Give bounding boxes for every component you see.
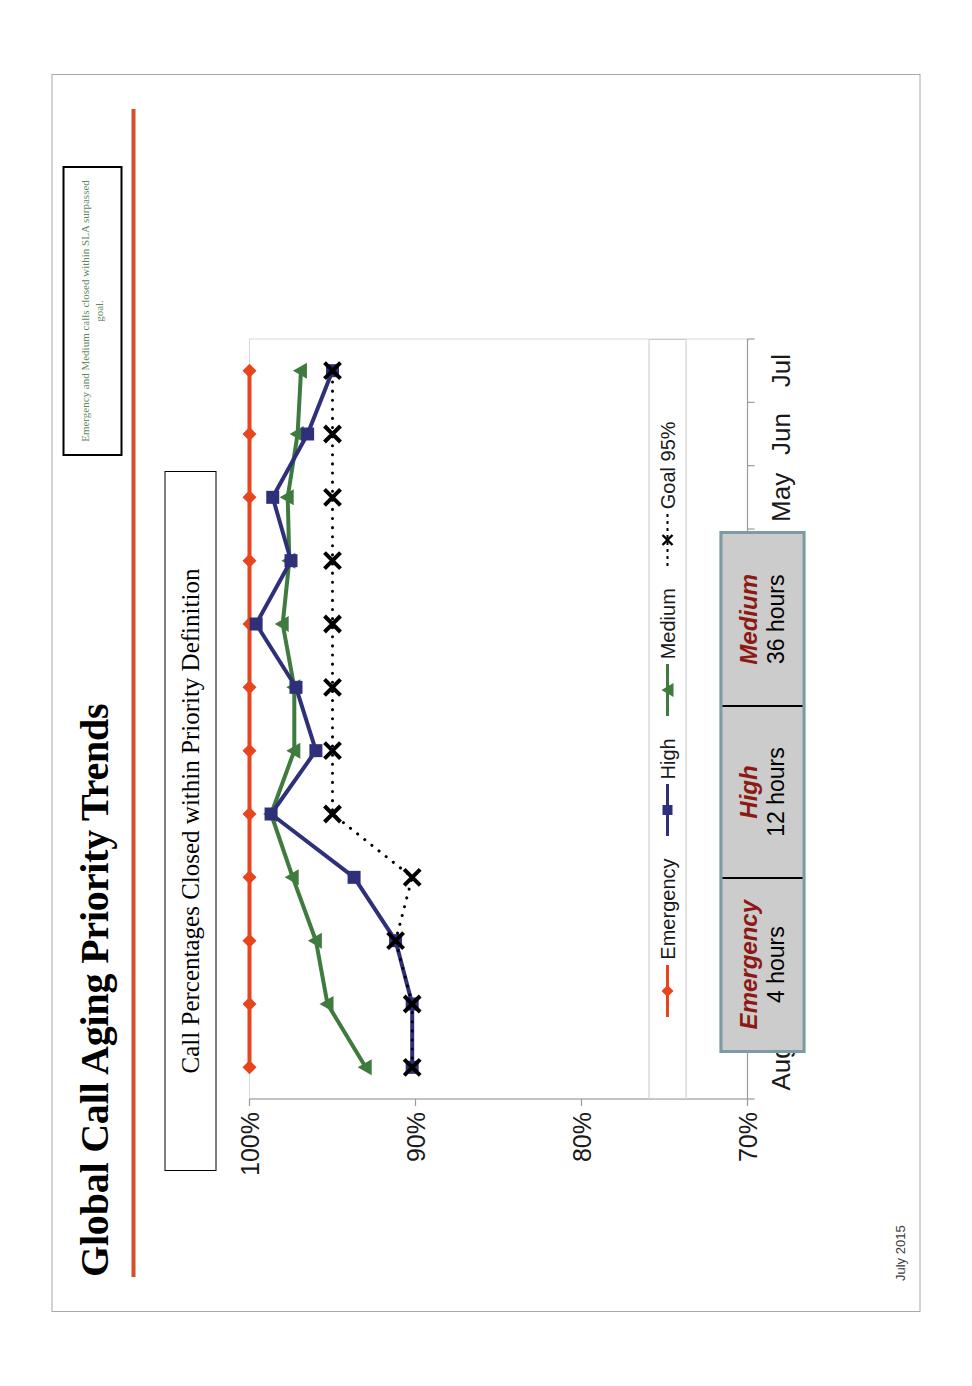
legend-item-goal: Goal 95%	[656, 421, 679, 566]
subtitle-text: Call Percentages Closed within Priority …	[177, 569, 205, 1074]
sla-value-high: 12 hours	[763, 747, 789, 837]
presentation-slide: Global Call Aging Priority Trends Emerge…	[52, 74, 921, 1312]
y-tick-label: 100%	[236, 1112, 264, 1176]
legend-item-emergency: Emergency	[656, 858, 679, 1016]
x-tick-label: May	[766, 473, 796, 522]
emergency-series-icon	[659, 965, 677, 1017]
slide-title: Global Call Aging Priority Trends	[71, 557, 118, 1277]
subtitle-box: Call Percentages Closed within Priority …	[165, 471, 217, 1171]
series-layer	[243, 363, 421, 1076]
y-axis-ticks	[250, 1099, 748, 1106]
medium-series-icon	[659, 664, 677, 716]
y-axis-labels: 70%80%90%100%	[236, 1112, 762, 1176]
series-medium	[263, 363, 372, 1076]
sla-column-medium: Medium 36 hours	[723, 534, 803, 705]
sla-column-emergency: Emergency 4 hours	[723, 877, 803, 1050]
chart-legend: Emergency High Medium	[649, 339, 687, 1099]
y-tick-label: 90%	[402, 1112, 430, 1162]
y-tick-label: 80%	[568, 1112, 596, 1162]
goal-series-icon	[659, 514, 677, 566]
callout-note-box: Emergency and Medium calls closed within…	[63, 166, 123, 456]
legend-label-high: High	[656, 738, 679, 779]
sla-definition-table: Emergency 4 hours High 12 hours Medium 3…	[720, 531, 806, 1053]
legend-label-medium: Medium	[656, 588, 679, 659]
y-tick-label: 70%	[734, 1112, 762, 1162]
x-tick-label: Jul	[766, 354, 796, 387]
sla-column-high: High 12 hours	[723, 705, 803, 878]
series-goal-95-	[325, 363, 421, 1076]
rotated-slide-wrapper: Global Call Aging Priority Trends Emerge…	[0, 0, 972, 1386]
x-tick-label: Jun	[766, 413, 796, 455]
callout-note-text: Emergency and Medium calls closed within…	[79, 168, 107, 454]
title-accent-rule	[132, 109, 136, 1277]
slide-footer-date: July 2015	[893, 1225, 908, 1281]
sla-value-medium: 36 hours	[763, 575, 789, 665]
series-emergency	[243, 364, 257, 1075]
legend-item-medium: Medium	[656, 588, 679, 716]
series-high	[250, 364, 419, 1074]
high-series-icon	[659, 784, 677, 836]
sla-header-emergency: Emergency	[736, 900, 761, 1029]
sla-header-medium: Medium	[736, 574, 761, 665]
sla-header-high: High	[736, 765, 761, 818]
sla-value-emergency: 4 hours	[763, 926, 789, 1003]
legend-item-high: High	[656, 738, 679, 836]
legend-label-emergency: Emergency	[656, 858, 679, 959]
legend-label-goal: Goal 95%	[656, 421, 679, 509]
